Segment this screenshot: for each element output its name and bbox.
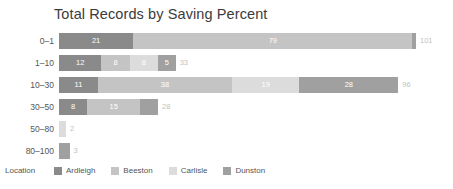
bar-segment[interactable]: 5 [158, 55, 176, 71]
stacked-bar[interactable] [59, 121, 66, 137]
legend-label: Dunston [235, 163, 265, 179]
bar-segment[interactable] [140, 99, 158, 115]
row-total-value: 33 [180, 55, 188, 71]
bar-row[interactable]: 10–301138192896 [0, 74, 453, 96]
plot-area: 0–121791011–10128853310–30113819289630–5… [0, 28, 453, 158]
bar-segment[interactable]: 12 [59, 55, 101, 71]
bar-segment[interactable]: 8 [59, 99, 87, 115]
stacked-bar[interactable]: 11381928 [59, 77, 398, 93]
category-label: 10–30 [0, 74, 54, 96]
legend-swatch-icon [111, 167, 119, 175]
bar-row[interactable]: 50–802 [0, 118, 453, 140]
row-total-value: 101 [420, 33, 433, 49]
bar-segment[interactable]: 19 [232, 77, 299, 93]
legend-item[interactable]: Carlisle [169, 163, 208, 179]
legend-label: Beeston [123, 163, 152, 179]
legend-swatch-icon [223, 167, 231, 175]
bar-segment-value: 8 [130, 55, 158, 71]
legend-item[interactable]: Dunston [223, 163, 265, 179]
legend-swatch-icon [54, 167, 62, 175]
chart-container: Total Records by Saving Percent 0–121791… [0, 0, 453, 189]
bar-segment-value: 8 [59, 99, 87, 115]
stacked-bar[interactable]: 12885 [59, 55, 176, 71]
bar-segment[interactable]: 8 [130, 55, 158, 71]
bar-segment[interactable]: 8 [101, 55, 129, 71]
legend-swatch-icon [169, 167, 177, 175]
bar-segment[interactable] [59, 121, 66, 137]
stacked-bar[interactable] [59, 143, 70, 159]
bar-row[interactable]: 30–5081528 [0, 96, 453, 118]
row-total-value: 3 [74, 143, 78, 159]
row-total-value: 2 [70, 121, 74, 137]
bar-row[interactable]: 1–101288533 [0, 52, 453, 74]
bar-segment-value: 19 [232, 77, 299, 93]
bar-segment[interactable] [412, 33, 416, 49]
chart-title: Total Records by Saving Percent [54, 6, 267, 22]
bar-segment[interactable]: 21 [59, 33, 133, 49]
row-total-value: 28 [162, 99, 170, 115]
category-label: 1–10 [0, 52, 54, 74]
stacked-bar[interactable]: 2179 [59, 33, 416, 49]
bar-segment-value: 38 [98, 77, 232, 93]
bar-row[interactable]: 0–12179101 [0, 30, 453, 52]
legend-item[interactable]: Beeston [111, 163, 152, 179]
bar-segment-value: 11 [59, 77, 98, 93]
bar-segment-value: 12 [59, 55, 101, 71]
legend-title: Location [0, 163, 54, 179]
bar-segment[interactable]: 79 [133, 33, 412, 49]
legend-label: Carlisle [181, 163, 208, 179]
bar-segment-value: 79 [133, 33, 412, 49]
legend-label: Ardleigh [66, 163, 95, 179]
bar-segment-value: 5 [158, 55, 176, 71]
legend-item[interactable]: Ardleigh [54, 163, 95, 179]
row-total-value: 96 [402, 77, 410, 93]
category-label: 30–50 [0, 96, 54, 118]
category-label: 0–1 [0, 30, 54, 52]
bar-segment-value: 15 [87, 99, 140, 115]
stacked-bar[interactable]: 815 [59, 99, 158, 115]
bar-segment-value: 8 [101, 55, 129, 71]
bar-segment[interactable]: 38 [98, 77, 232, 93]
category-label: 80–100 [0, 140, 54, 162]
bar-segment-value: 21 [59, 33, 133, 49]
bar-segment[interactable]: 15 [87, 99, 140, 115]
chart-legend: Location ArdleighBeestonCarlisleDunston [0, 163, 453, 179]
bar-segment-value: 28 [299, 77, 398, 93]
bar-segment[interactable] [59, 143, 70, 159]
bar-segment[interactable]: 11 [59, 77, 98, 93]
bar-row[interactable]: 80–1003 [0, 140, 453, 162]
category-label: 50–80 [0, 118, 54, 140]
bar-segment[interactable]: 28 [299, 77, 398, 93]
